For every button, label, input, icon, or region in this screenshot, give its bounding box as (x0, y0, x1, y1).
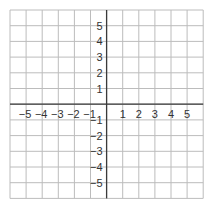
x-tick-label: −3 (51, 108, 64, 120)
x-tick-label: 4 (168, 108, 174, 120)
x-tick-label: −2 (67, 108, 80, 120)
y-tick-label: 5 (96, 20, 102, 32)
x-tick-label: −5 (19, 108, 32, 120)
y-tick-label: −4 (90, 161, 103, 173)
coordinate-plane: −5−4−3−2−112345 54321−1−2−3−4−5 (0, 0, 215, 206)
y-tick-label: 4 (96, 35, 102, 47)
x-axis-tick-labels: −5−4−3−2−112345 (19, 108, 190, 120)
y-tick-label: 3 (96, 51, 102, 63)
y-tick-label: −1 (90, 114, 103, 126)
x-tick-label: 2 (136, 108, 142, 120)
x-tick-label: 5 (184, 108, 190, 120)
y-tick-label: −3 (90, 145, 103, 157)
axes (10, 10, 203, 198)
y-tick-label: −2 (90, 130, 103, 142)
y-tick-label: −5 (90, 177, 103, 189)
x-tick-label: 1 (120, 108, 126, 120)
x-tick-label: 3 (152, 108, 158, 120)
y-tick-label: 2 (96, 67, 102, 79)
y-tick-label: 1 (96, 83, 102, 95)
x-tick-label: −4 (35, 108, 48, 120)
